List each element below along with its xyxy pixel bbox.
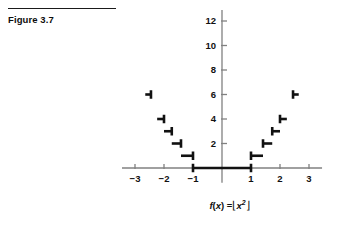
step-segment-5 xyxy=(145,90,151,99)
step-segment-3 xyxy=(164,127,172,136)
step-segment-9 xyxy=(280,115,287,124)
x-tick-label-0: −3 xyxy=(130,173,141,184)
axis-tick-labels-group: −3−2−112324681012 xyxy=(130,15,312,184)
floor-right-bracket-icon: ⌋ xyxy=(246,199,250,211)
step-segment-2 xyxy=(172,139,181,148)
step-segment-4 xyxy=(157,115,164,124)
figure-rule-divider xyxy=(8,8,116,9)
y-tick-label-3: 8 xyxy=(211,64,216,75)
x-tick-label-5: 3 xyxy=(306,173,311,184)
step-segment-8 xyxy=(272,127,280,136)
y-tick-label-0: 2 xyxy=(211,138,216,149)
step-segment-10 xyxy=(293,90,299,99)
step-segment-7 xyxy=(263,139,272,148)
y-tick-label-4: 10 xyxy=(205,40,216,51)
plot-area: −3−2−112324681012 xyxy=(122,10,337,225)
y-tick-label-2: 6 xyxy=(211,89,216,100)
x-tick-label-1: −2 xyxy=(159,173,170,184)
figure-container: Figure 3.7 −3−2−112324681012 f(x) =⌊x2⌋ xyxy=(0,0,337,225)
step-segment-1 xyxy=(181,152,193,161)
y-tick-label-1: 4 xyxy=(211,113,217,124)
figure-number-label: Figure 3.7 xyxy=(8,14,124,26)
x-tick-label-3: 1 xyxy=(248,173,254,184)
x-tick-label-2: −1 xyxy=(188,173,200,184)
y-tick-label-5: 12 xyxy=(205,15,216,26)
caption-close-paren: ) xyxy=(221,200,224,211)
x-tick-label-4: 2 xyxy=(277,173,282,184)
figure-caption: f(x) =⌊x2⌋ xyxy=(122,199,337,212)
figure-label-block: Figure 3.7 xyxy=(8,8,124,26)
step-function-plot: −3−2−112324681012 xyxy=(122,10,337,200)
step-segment-6 xyxy=(251,152,263,161)
